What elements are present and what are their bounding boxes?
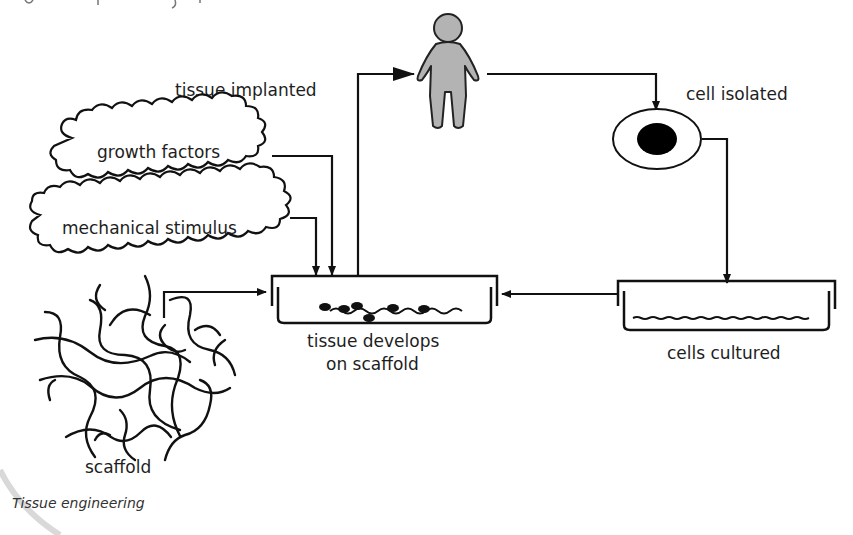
tissue-engineering-diagram: cell isolated cells cultured tissue deve… bbox=[0, 0, 853, 535]
growth-factors-label: growth factors bbox=[97, 142, 220, 162]
arrow-person-to-cell bbox=[487, 74, 656, 110]
tissue-dish-icon bbox=[272, 276, 497, 323]
mechanical-stimulus-label: mechanical stimulus bbox=[62, 218, 237, 238]
tissue-develops-label-line2: on scaffold bbox=[326, 354, 419, 374]
cells-cultured-label: cells cultured bbox=[667, 343, 781, 363]
figure-caption: Tissue engineering bbox=[12, 495, 145, 511]
cell-isolated-label: cell isolated bbox=[686, 84, 788, 104]
mechanical-stimulus-cloud-icon bbox=[30, 163, 291, 252]
cell-icon bbox=[613, 109, 701, 169]
arrow-scaffold-to-tissue bbox=[164, 292, 266, 318]
arrow-cell-to-culture bbox=[702, 139, 727, 283]
scaffold-label: scaffold bbox=[85, 457, 151, 477]
clipped-heading-fragment bbox=[25, 0, 200, 8]
tissue-develops-label-line1: tissue develops bbox=[307, 331, 439, 351]
person-icon bbox=[418, 14, 479, 128]
culture-dish-icon bbox=[618, 281, 835, 330]
scaffold-mesh-icon bbox=[35, 276, 235, 460]
arrow-mechanical-to-tissue bbox=[290, 218, 316, 275]
arrow-tissue-implanted bbox=[358, 74, 414, 276]
